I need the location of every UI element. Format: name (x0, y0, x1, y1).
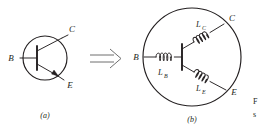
collector-wire-inner-b (182, 42, 194, 49)
emitter-arrowhead-a (52, 70, 59, 76)
transform-arrow-icon (90, 49, 121, 68)
collector-inductor-label: L C (195, 19, 207, 31)
collector-wire-outer-b (210, 24, 224, 33)
terminal-label-collector-a: C (69, 24, 76, 34)
terminal-label-collector-b: C (229, 13, 236, 23)
base-inductor-symbol: L (157, 67, 163, 77)
terminal-label-emitter-b: E (230, 87, 237, 97)
collector-inductor-coil-group (192, 31, 209, 45)
emitter-inductor-coil (192, 69, 209, 83)
collector-inductor-subscript: C (202, 25, 207, 31)
collector-inductor-symbol: L (195, 19, 201, 29)
equivalent-envelope-circle (143, 8, 241, 106)
terminal-label-base-a: B (8, 53, 14, 63)
collector-lead-extension-a (62, 35, 68, 38)
emitter-inductor-symbol: L (195, 83, 201, 93)
emitter-inductor-label: L E (195, 83, 206, 95)
emitter-inductor-coil-group (192, 69, 209, 83)
terminal-label-base-b: B (133, 52, 139, 62)
collector-inductor-coil (192, 31, 209, 45)
base-inductor-coil (156, 53, 171, 61)
base-inductor-label: L B (157, 67, 168, 79)
caption-fragment-line2: s (253, 110, 256, 119)
panel-b-group: B C E L B L C L E (b) (133, 8, 241, 124)
emitter-wire-outer-b (210, 82, 226, 91)
collector-lead-wire-a (37, 38, 62, 51)
base-inductor-subscript: B (164, 73, 168, 79)
panel-label-a: (a) (40, 111, 50, 120)
figure-root: B C E (a) (0, 0, 260, 133)
panel-label-b: (b) (187, 115, 197, 124)
terminal-label-emitter-a: E (66, 80, 73, 90)
emitter-lead-extension-a (58, 76, 64, 80)
emitter-inductor-subscript: E (201, 89, 206, 95)
panel-a-group: B C E (a) (8, 24, 76, 120)
emitter-wire-inner-b (182, 65, 194, 72)
caption-fragment-line1: F (253, 97, 258, 106)
schematic-figure: B C E (a) (0, 0, 260, 133)
caption-fragment: F s (253, 97, 258, 119)
